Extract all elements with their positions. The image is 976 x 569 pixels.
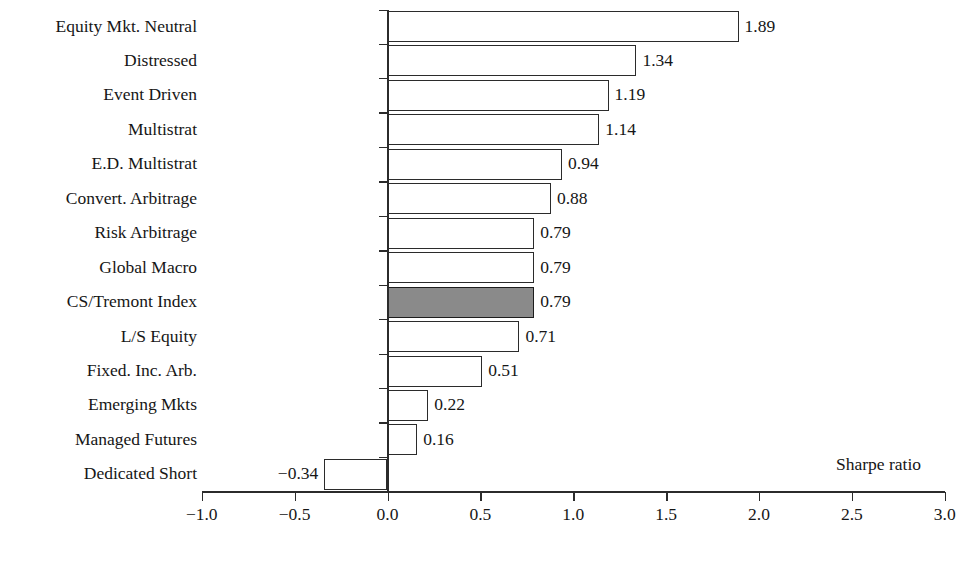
bar-value-label: 0.94 — [568, 155, 599, 173]
bar — [388, 252, 535, 283]
bar-value-label: 0.79 — [540, 259, 571, 277]
category-axis-tick — [379, 78, 388, 79]
x-axis-tick-label: −1.0 — [172, 506, 232, 524]
bar-value-label: 0.51 — [488, 362, 519, 380]
category-axis-tick — [379, 10, 388, 11]
bar-value-label: 1.14 — [605, 121, 636, 139]
x-axis-tick-label: −0.5 — [265, 506, 325, 524]
bar-value-label: 1.34 — [642, 52, 673, 70]
x-axis-tick-label: 1.5 — [636, 506, 696, 524]
x-axis-title: Sharpe ratio — [836, 456, 921, 474]
x-axis-tick-label: 2.5 — [822, 506, 882, 524]
x-axis-tick — [202, 492, 203, 501]
bar-value-label: 0.79 — [540, 293, 571, 311]
bar — [388, 424, 418, 455]
x-axis-tick — [573, 492, 574, 501]
category-axis-tick — [379, 250, 388, 251]
category-axis-tick — [379, 388, 388, 389]
x-axis-tick-label: 0.0 — [358, 506, 418, 524]
x-axis-tick — [945, 492, 946, 501]
bar-value-label: 0.16 — [423, 431, 454, 449]
bar — [388, 183, 551, 214]
x-axis-tick — [295, 492, 296, 501]
bar-value-label: 0.79 — [540, 224, 571, 242]
bar-value-label: 1.19 — [615, 86, 646, 104]
bar — [388, 356, 483, 387]
category-axis-tick — [379, 147, 388, 148]
x-axis-tick — [666, 492, 667, 501]
bar — [388, 11, 739, 42]
bar — [388, 321, 520, 352]
category-axis-tick — [379, 44, 388, 45]
bar — [388, 45, 637, 76]
x-axis-tick-label: 0.5 — [450, 506, 510, 524]
category-axis-tick — [379, 112, 388, 113]
bar — [388, 80, 609, 111]
category-axis-tick — [379, 181, 388, 182]
bar-value-label: 0.22 — [434, 396, 465, 414]
category-axis-tick — [379, 216, 388, 217]
bar — [388, 390, 429, 421]
bar-value-label: −0.34 — [278, 465, 319, 483]
x-axis-tick — [852, 492, 853, 501]
category-axis-tick — [379, 457, 388, 458]
x-axis-tick-label: 1.0 — [543, 506, 603, 524]
x-axis-tick — [759, 492, 760, 501]
bar — [324, 459, 387, 490]
plot-area: 1.891.341.191.140.940.880.790.790.790.71… — [0, 0, 976, 569]
category-axis-tick — [379, 422, 388, 423]
bar — [388, 149, 563, 180]
bar — [388, 218, 535, 249]
x-axis-tick-label: 2.0 — [729, 506, 789, 524]
sharpe-ratio-bar-chart: Equity Mkt. NeutralDistressedEvent Drive… — [0, 0, 976, 569]
x-axis-tick-label: 3.0 — [915, 506, 975, 524]
bar-value-label: 0.71 — [525, 328, 556, 346]
bar-value-label: 1.89 — [745, 18, 776, 36]
x-axis-tick — [388, 492, 389, 501]
category-axis-tick — [379, 319, 388, 320]
bar — [388, 114, 600, 145]
bar-value-label: 0.88 — [557, 190, 588, 208]
bar-highlighted — [388, 287, 535, 318]
x-axis-tick — [480, 492, 481, 501]
category-axis-tick — [379, 285, 388, 286]
category-axis-tick — [379, 354, 388, 355]
